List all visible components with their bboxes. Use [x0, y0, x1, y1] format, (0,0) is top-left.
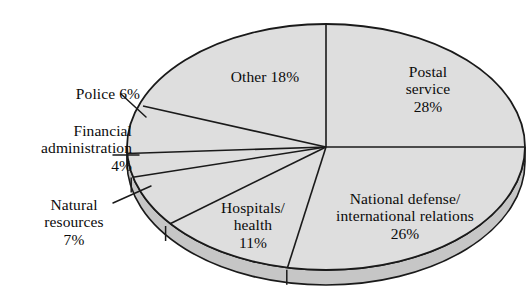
- pie-chart-graphic: [0, 0, 532, 299]
- pie-chart-figure: Postal service 28% National defense/ int…: [0, 0, 532, 299]
